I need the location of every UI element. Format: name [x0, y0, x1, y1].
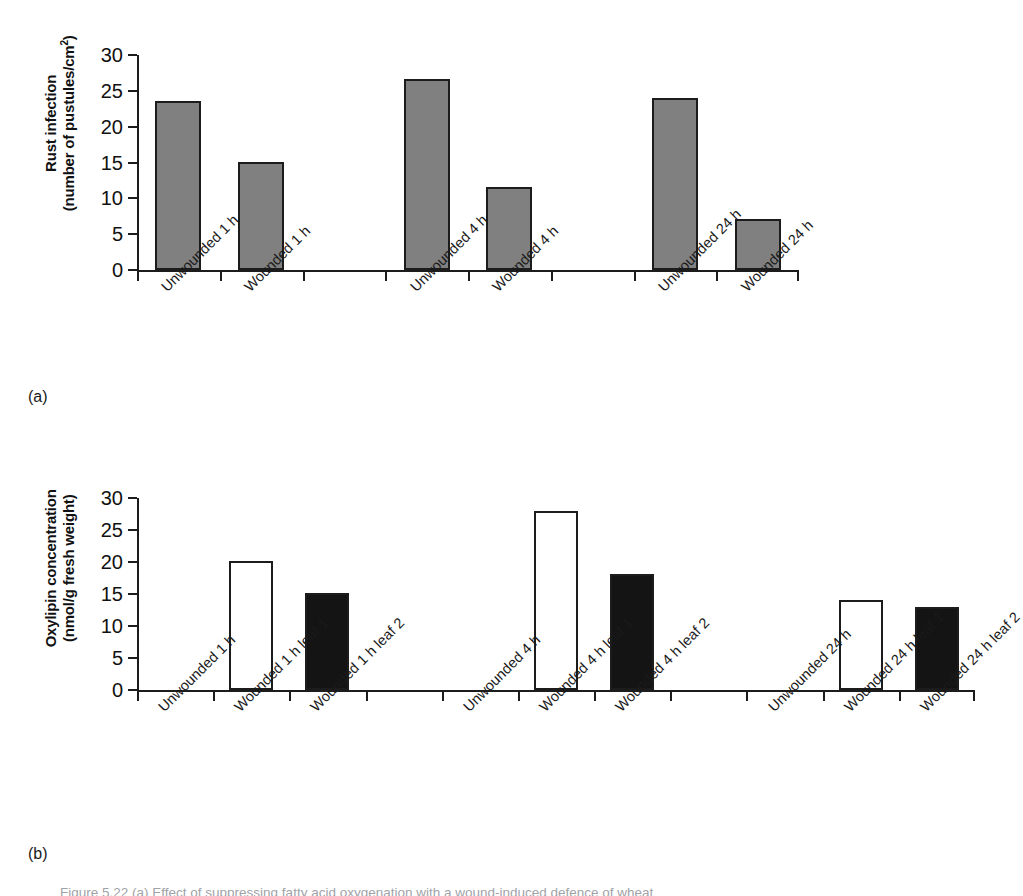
x-axis-tick — [213, 692, 215, 701]
x-axis-tick — [823, 692, 825, 701]
x-axis-tick — [973, 692, 975, 701]
y-axis-tick: 25 — [128, 529, 137, 531]
figure-caption: Figure 5.22 (a) Effect of suppressing fa… — [60, 884, 1000, 896]
x-axis-tick — [289, 692, 291, 701]
y-axis-tick: 5 — [128, 657, 137, 659]
x-axis-tick — [899, 692, 901, 701]
x-axis-tick — [518, 692, 520, 701]
y-axis-title-b: Oxylipin concentration (nmol/g fresh wei… — [42, 448, 79, 688]
y-axis-tick-label: 5 — [112, 648, 123, 668]
x-axis-tick — [442, 692, 444, 701]
x-axis-tick — [746, 692, 748, 701]
y-axis-tick-label: 10 — [101, 616, 123, 636]
y-axis-tick-label: 25 — [101, 520, 123, 540]
y-axis-tick-label: 30 — [101, 488, 123, 508]
y-axis-tick: 15 — [128, 593, 137, 595]
y-axis-tick-label: 15 — [101, 584, 123, 604]
y-axis-title-b-line2: (nmol/g fresh weight) — [60, 495, 77, 642]
y-axis-tick: 30 — [128, 497, 137, 499]
x-axis-tick — [137, 692, 139, 701]
y-axis-tick: 20 — [128, 561, 137, 563]
y-axis-tick-label: 0 — [112, 680, 123, 700]
y-axis-tick: 10 — [128, 625, 137, 627]
y-axis-title-b-line1: Oxylipin concentration — [42, 489, 59, 647]
bar — [534, 511, 578, 690]
y-axis-tick-label: 20 — [101, 552, 123, 572]
x-axis-tick — [366, 692, 368, 701]
plot-area-b: 051015202530 — [137, 498, 975, 692]
y-axis-tick: 0 — [128, 689, 137, 691]
y-axis-line-b — [137, 498, 139, 692]
x-axis-tick — [594, 692, 596, 701]
panel-marker-b: (b) — [28, 845, 48, 863]
x-axis-tick — [670, 692, 672, 701]
